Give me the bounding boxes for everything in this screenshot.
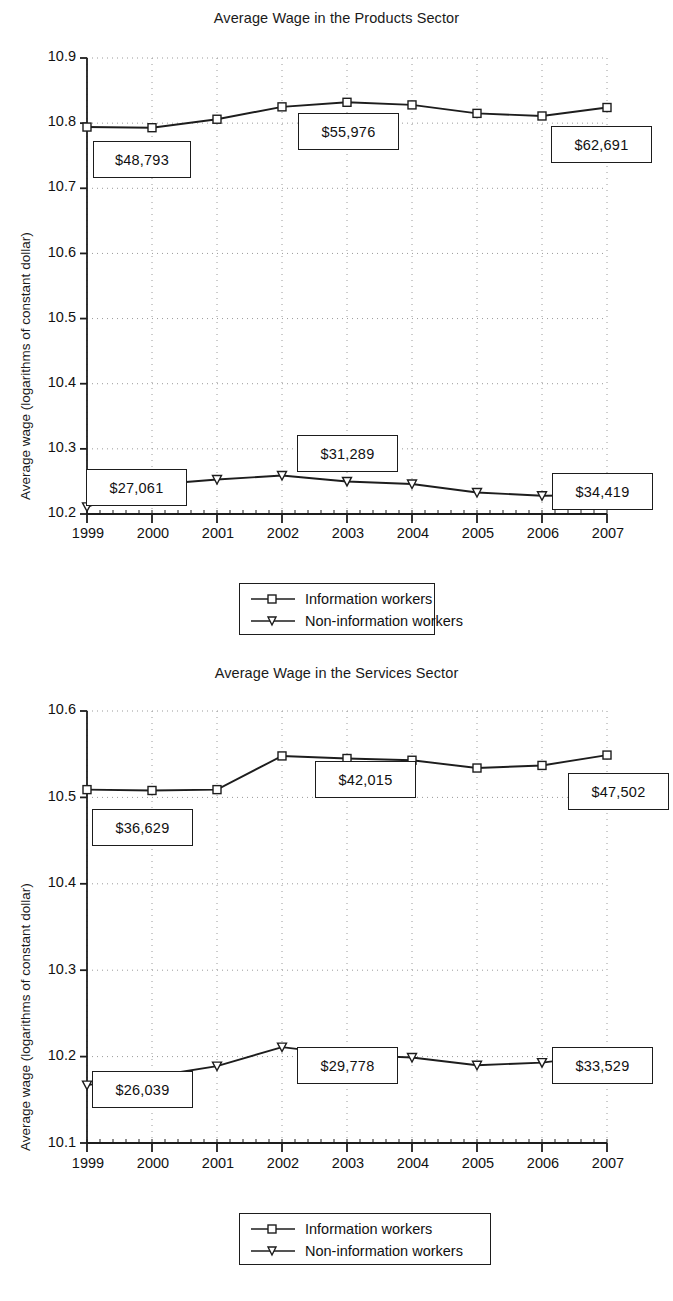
legend-label-information-workers: Information workers [305, 1221, 432, 1237]
legend-label-non-information-workers: Non-information workers [305, 1243, 463, 1259]
callout-noninfo-2003: $29,778 [297, 1047, 398, 1084]
callout-info-2007: $62,691 [551, 126, 652, 163]
callout-info-2007: $47,502 [568, 773, 669, 810]
callout-noninfo-2003: $31,289 [297, 435, 398, 472]
legend-key-square-icon [250, 592, 296, 606]
chart-services-sector: Average Wage in the Services Sector Aver… [0, 651, 673, 1301]
legend-item-information-workers[interactable]: Information workers [250, 1218, 478, 1240]
legend-services: Information workers Non-information work… [239, 1213, 491, 1265]
callout-info-2003: $55,976 [298, 113, 399, 150]
callout-noninfo-2007: $33,529 [552, 1047, 653, 1084]
callout-noninfo-2007: $34,419 [552, 473, 653, 510]
legend-label-non-information-workers: Non-information workers [305, 613, 463, 629]
callout-info-2003: $42,015 [315, 761, 416, 798]
legend-item-information-workers[interactable]: Information workers [250, 588, 422, 610]
callout-info-1999: $48,793 [93, 141, 191, 178]
legend-products: Information workers Non-information work… [239, 583, 435, 635]
chart-products-sector: Average Wage in the Products Sector Aver… [0, 0, 673, 650]
legend-label-information-workers: Information workers [305, 591, 432, 607]
legend-key-triangle-icon [250, 1244, 296, 1258]
legend-item-non-information-workers[interactable]: Non-information workers [250, 1240, 478, 1262]
legend-key-triangle-icon [250, 614, 296, 628]
plot-area-services [0, 651, 673, 1191]
callout-info-1999: $36,629 [92, 809, 193, 846]
callout-noninfo-1999: $26,039 [92, 1071, 193, 1108]
legend-item-non-information-workers[interactable]: Non-information workers [250, 610, 422, 632]
callout-noninfo-1999: $27,061 [86, 469, 187, 506]
legend-key-square-icon [250, 1222, 296, 1236]
